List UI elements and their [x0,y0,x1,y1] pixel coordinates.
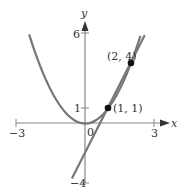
y-tick-label-1: 1 [74,102,81,115]
x-axis-arrow-icon [160,120,170,127]
point-1-1 [105,105,112,112]
x-tick-label-0: 0 [87,126,94,139]
y-tick-label-neg4: −4 [70,177,86,190]
point-label-1-1: (1, 1) [113,102,143,115]
x-tick-label-neg3: −3 [9,127,25,140]
chart-canvas: y x −3 0 3 6 1 −4 (1, 1) (2, 4) [0,0,185,196]
point-label-2-4: (2, 4) [107,50,137,63]
x-axis-label: x [171,117,178,130]
y-axis-arrow-icon [82,21,89,31]
y-tick-label-6: 6 [73,28,80,41]
x-tick-label-3: 3 [151,127,158,140]
y-axis-label: y [80,7,88,20]
